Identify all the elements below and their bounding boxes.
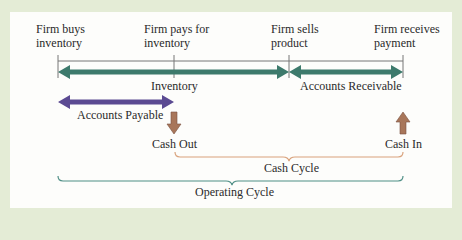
event-label-line2: inventory xyxy=(144,36,209,50)
event-label-line2: product xyxy=(271,36,319,50)
cash-in-label: Cash In xyxy=(385,137,422,151)
event-firm-receives-payment: Firm receives payment xyxy=(374,22,440,50)
event-firm-pays-inventory: Firm pays for inventory xyxy=(144,22,209,50)
accounts-receivable-arrow xyxy=(289,65,403,79)
event-firm-sells-product: Firm sells product xyxy=(271,22,319,50)
event-firm-buys-inventory: Firm buys inventory xyxy=(36,22,85,50)
cash-out-label: Cash Out xyxy=(152,137,197,151)
timeline-axis xyxy=(58,55,403,78)
event-label-line1: Firm buys xyxy=(36,22,85,36)
event-label-line1: Firm sells xyxy=(271,22,319,36)
accounts-payable-arrow xyxy=(58,95,174,109)
cash-in-arrow-icon xyxy=(396,112,410,134)
inventory-label: Inventory xyxy=(151,79,198,93)
operating-cycle-label: Operating Cycle xyxy=(195,185,274,199)
event-label-line1: Firm receives xyxy=(374,22,440,36)
cash-cycle-label: Cash Cycle xyxy=(264,161,319,175)
accounts-receivable-label: Accounts Receivable xyxy=(300,79,402,93)
event-label-line2: payment xyxy=(374,36,440,50)
cash-out-arrow-icon xyxy=(167,112,181,134)
event-label-line2: inventory xyxy=(36,36,85,50)
event-label-line1: Firm pays for xyxy=(144,22,209,36)
accounts-payable-label: Accounts Payable xyxy=(77,108,163,122)
cash-cycle-brace xyxy=(175,152,403,161)
operating-cycle-brace xyxy=(58,176,403,185)
